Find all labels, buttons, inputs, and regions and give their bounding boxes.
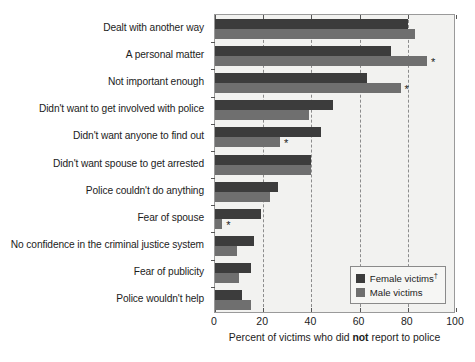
- y-tick-8: [211, 232, 215, 233]
- legend-swatch-male-icon: [356, 288, 365, 297]
- chart-legend: Female victims† Male victims: [350, 266, 446, 304]
- bar-female: [215, 155, 311, 165]
- y-tick-4: [211, 124, 215, 125]
- bar-male: [215, 29, 415, 39]
- legend-dagger-marker: †: [434, 271, 438, 280]
- category-axis-labels: Dealt with another wayA personal matterN…: [0, 14, 210, 313]
- category-label: Didn't want spouse to get arrested: [53, 158, 204, 169]
- legend-swatch-female-icon: [356, 274, 365, 283]
- legend-label-male: Male victims: [370, 287, 423, 298]
- x-tick-label-100: 100: [446, 315, 464, 327]
- category-label: A personal matter: [126, 49, 204, 60]
- plot-area: **** Female victims† Male victims: [214, 14, 455, 313]
- x-axis-tick-labels: 020406080100: [214, 315, 455, 331]
- x-tick-label-40: 40: [305, 315, 317, 327]
- bar-male: [215, 246, 237, 256]
- x-tick-bottom-20: [263, 308, 264, 312]
- x-tick-bottom-100: [456, 308, 457, 312]
- significance-marker: *: [226, 220, 230, 230]
- x-tick-top-100: [456, 15, 457, 19]
- legend-label-female: Female victims†: [370, 271, 438, 284]
- category-label: Didn't want to get involved with police: [39, 103, 204, 114]
- bar-male: [215, 110, 309, 120]
- x-tick-bottom-60: [360, 308, 361, 312]
- x-tick-top-80: [408, 15, 409, 19]
- bar-female: [215, 182, 278, 192]
- significance-marker: *: [431, 57, 435, 67]
- x-tick-label-0: 0: [211, 315, 217, 327]
- y-tick-10: [211, 287, 215, 288]
- bar-female: [215, 209, 261, 219]
- y-tick-3: [211, 97, 215, 98]
- y-tick-9: [211, 260, 215, 261]
- bar-male: [215, 165, 311, 175]
- y-tick-1: [211, 42, 215, 43]
- bar-female: [215, 46, 391, 56]
- bar-male: [215, 273, 239, 283]
- x-axis-title-emphasis: not: [352, 332, 368, 343]
- bar-female: [215, 127, 321, 137]
- category-label: Didn't want anyone to find out: [73, 130, 204, 141]
- x-tick-label-80: 80: [401, 315, 413, 327]
- bar-female: [215, 100, 333, 110]
- category-label: Dealt with another way: [103, 22, 204, 33]
- legend-item-female: Female victims†: [356, 271, 438, 285]
- y-tick-7: [211, 205, 215, 206]
- category-label: Fear of publicity: [134, 266, 204, 277]
- x-tick-bottom-80: [408, 308, 409, 312]
- significance-marker: *: [405, 84, 409, 94]
- bar-male: [215, 56, 427, 66]
- y-tick-2: [211, 69, 215, 70]
- bar-male: [215, 192, 270, 202]
- significance-marker: *: [284, 138, 288, 148]
- bar-female: [215, 290, 242, 300]
- x-tick-label-20: 20: [256, 315, 268, 327]
- bar-female: [215, 19, 408, 29]
- category-label: Police couldn't do anything: [86, 185, 204, 196]
- bar-female: [215, 263, 251, 273]
- category-label: Fear of spouse: [137, 212, 204, 223]
- bar-female: [215, 236, 254, 246]
- category-label: No confidence in the criminal justice sy…: [11, 239, 204, 250]
- legend-item-male: Male victims: [356, 285, 438, 299]
- bar-male: [215, 219, 222, 229]
- y-tick-5: [211, 151, 215, 152]
- x-tick-bottom-40: [311, 308, 312, 312]
- bar-male: [215, 300, 251, 310]
- x-tick-label-60: 60: [353, 315, 365, 327]
- bar-male: [215, 137, 280, 147]
- y-tick-6: [211, 178, 215, 179]
- category-label: Police wouldn't help: [116, 293, 204, 304]
- category-label: Not important enough: [108, 76, 204, 87]
- bar-male: [215, 83, 401, 93]
- x-axis-title: Percent of victims who did not report to…: [214, 332, 455, 343]
- bar-chart-figure: Dealt with another wayA personal matterN…: [0, 0, 475, 362]
- bar-female: [215, 73, 367, 83]
